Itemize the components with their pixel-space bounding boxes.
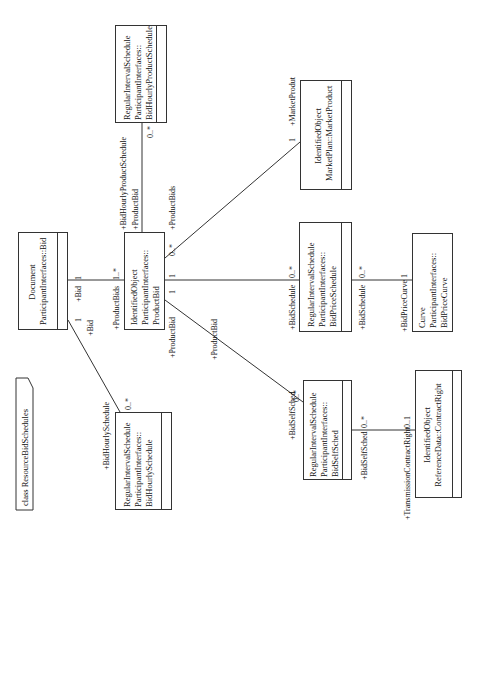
association-lines [0,0,478,679]
multiplicity-label: 0..* [168,244,178,256]
class-bid-hourly-product-schedule[interactable]: RegularIntervalSchedule ParticipantInter… [115,25,167,123]
role-label: +ProductBid [168,317,178,358]
class-label: IdentifiedObject MarketPlan::MarketProdu… [313,91,335,181]
multiplicity-label: 0..* [146,126,156,138]
frame-label: class ResourceBidSchedules [20,409,30,506]
multiplicity-label: 0..* [124,398,134,410]
role-label: +Bid [74,286,84,302]
class-label: RegularIntervalSchedule ParticipantInter… [122,26,155,120]
role-label: +BidSelfSched [360,431,370,480]
role-label: +ProductBids [168,186,178,230]
class-product-bid[interactable]: IdentifiedObject ParticipantInterfaces::… [124,232,165,330]
multiplicity-label: 1..* [112,268,122,280]
assoc-productbid-selfsched [165,300,303,402]
role-label: +ProductBid [210,319,220,360]
multiplicity-label: 1 [168,274,178,278]
multiplicity-label: 0..* [358,266,368,278]
class-label: RegularIntervalSchedule ParticipantInter… [122,423,155,508]
role-label: +BidPriceCurve [400,280,410,332]
role-label: +ProductBid [131,189,141,230]
class-label: RegularIntervalSchedule ParticipantInter… [308,393,341,478]
multiplicity-label: 1 [74,276,84,280]
multiplicity-label: 1 [168,290,178,294]
role-label: +Bid [86,320,96,336]
class-label: IdentifiedObject ReferenceData::Contract… [422,383,444,487]
multiplicity-label: 1 [74,318,84,322]
class-label: RegularIntervalSchedule ParticipantInter… [306,243,339,328]
multiplicity-label: 1 [400,274,410,278]
multiplicity-label: 0..* [360,416,370,428]
class-document-bid[interactable]: Document ParticipantInterfaces::Bid [18,232,68,330]
role-label: +ProductBids [112,286,122,330]
role-label: +BidSchedule [358,285,368,330]
multiplicity-label: 0..1 [403,416,413,428]
class-bid-price-curve[interactable]: Curve ParticipantInterfaces:: BidPriceCu… [412,233,453,332]
class-bid-hourly-schedule[interactable]: RegularIntervalSchedule ParticipantInter… [115,412,172,510]
multiplicity-label: 0..* [292,390,302,402]
role-label: +TransmissionContractRight [403,427,413,520]
class-bid-self-sched[interactable]: RegularIntervalSchedule ParticipantInter… [303,380,352,480]
role-label: +BidHourlySchedule [102,402,112,470]
class-label: Document ParticipantInterfaces::Bid [27,239,49,325]
role-label: +BidSchedule [288,285,298,330]
multiplicity-label: 1 [288,138,298,142]
role-label: +BidHourlyProductSchedule [119,137,129,230]
uml-class-diagram: class ResourceBidSchedules RegularInterv… [0,0,478,679]
class-label: IdentifiedObject ParticipantInterfaces::… [129,250,162,325]
class-label: Curve ParticipantInterfaces:: BidPriceCu… [417,253,450,328]
role-label: +MarketProdut [288,77,298,126]
multiplicity-label: 0..* [288,266,298,278]
class-market-product[interactable]: IdentifiedObject MarketPlan::MarketProdu… [300,80,352,190]
assoc-productbid-marketproduct [165,142,300,258]
class-bid-price-schedule[interactable]: RegularIntervalSchedule ParticipantInter… [299,222,352,332]
class-contract-right[interactable]: IdentifiedObject ReferenceData::Contract… [415,370,462,498]
